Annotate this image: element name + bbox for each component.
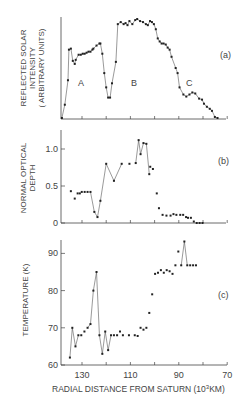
data-point xyxy=(142,21,144,23)
data-point xyxy=(105,163,107,165)
panel-b-x-ticks xyxy=(82,220,227,223)
data-point xyxy=(74,345,76,347)
data-point xyxy=(179,214,181,216)
data-point xyxy=(163,272,165,274)
data-point xyxy=(123,23,125,25)
data-point xyxy=(75,59,77,61)
data-point xyxy=(79,192,81,194)
x-tick-label: 130 xyxy=(74,370,89,380)
data-point xyxy=(175,67,177,69)
data-point xyxy=(142,142,144,144)
data-point xyxy=(152,168,154,170)
panel-a-ylabel-line1: REFLECTED SOLAR xyxy=(19,29,28,106)
data-point xyxy=(145,327,147,329)
panel-c-data-points xyxy=(69,240,197,358)
series-segment xyxy=(97,201,100,217)
data-point xyxy=(169,270,171,272)
data-point xyxy=(201,99,203,101)
panel-c-label: (c) xyxy=(218,290,229,300)
data-point xyxy=(115,61,117,63)
data-point xyxy=(177,251,179,253)
x-tick-label: 70 xyxy=(222,370,232,380)
data-point xyxy=(145,143,147,145)
data-point xyxy=(149,20,151,22)
data-point xyxy=(137,335,139,337)
data-point xyxy=(190,217,192,219)
panel-b-y-ticks: 00.51.0 xyxy=(45,144,65,228)
data-point xyxy=(107,97,109,99)
data-point xyxy=(214,116,216,118)
panel-a-ylabel-line3: ( ARBITRARY UNITS) xyxy=(37,28,46,107)
series-segment xyxy=(136,140,139,163)
data-point xyxy=(192,264,194,266)
panel-a-series-line xyxy=(62,19,218,118)
data-point xyxy=(121,163,123,165)
data-point xyxy=(68,49,70,51)
panel-b-ylabel-line1: NORMAL OPTICAL xyxy=(19,142,28,213)
data-point xyxy=(93,211,95,213)
y-tick-label: 90 xyxy=(48,248,58,258)
panel-c-ylabel: TEMPERATURE (K) xyxy=(21,263,30,336)
y-tick-label: 80 xyxy=(48,286,58,296)
data-point xyxy=(113,334,115,336)
panel-b-series-lines xyxy=(90,140,149,217)
data-point xyxy=(196,222,198,224)
data-point xyxy=(69,357,71,359)
data-point xyxy=(84,53,86,55)
series-segment xyxy=(75,335,78,346)
data-point xyxy=(158,207,160,209)
data-point xyxy=(117,23,119,25)
data-point xyxy=(92,48,94,50)
data-point xyxy=(166,269,168,271)
x-axis-title: RADIAL DISTANCE FROM SATURN (103KM) xyxy=(52,384,225,394)
series-segment xyxy=(70,328,72,358)
data-point xyxy=(77,334,79,336)
y-tick-label: 60 xyxy=(48,360,58,370)
data-point xyxy=(82,53,84,55)
data-point xyxy=(125,22,127,24)
data-point xyxy=(183,240,185,242)
data-point xyxy=(134,334,136,336)
data-point xyxy=(128,163,130,165)
y-tick-label: 70 xyxy=(48,323,58,333)
panel-b-ylabel-line2: DEPTH xyxy=(28,164,37,191)
data-point xyxy=(203,103,205,105)
data-point xyxy=(64,104,66,106)
data-point xyxy=(104,331,106,333)
data-point xyxy=(202,222,204,224)
data-point xyxy=(155,28,157,30)
data-point xyxy=(113,180,115,182)
panel-a-x-ticks xyxy=(82,116,227,119)
data-point xyxy=(77,192,79,194)
data-point xyxy=(140,327,142,329)
data-point xyxy=(156,192,158,194)
data-point xyxy=(98,334,100,336)
series-segment xyxy=(105,332,108,351)
data-point xyxy=(167,47,169,49)
data-point xyxy=(147,24,149,26)
data-point xyxy=(151,293,153,295)
data-point xyxy=(87,191,89,193)
data-point xyxy=(67,79,69,81)
series-segment xyxy=(139,140,141,154)
data-point xyxy=(134,19,136,21)
x-tick-label: 90 xyxy=(174,370,184,380)
data-point xyxy=(87,327,89,329)
region-a-label: A xyxy=(78,78,84,88)
data-point xyxy=(162,214,164,216)
data-point xyxy=(165,215,167,217)
data-point xyxy=(96,271,98,273)
x-tick-label: 110 xyxy=(123,370,137,380)
data-point xyxy=(89,191,91,193)
data-point xyxy=(174,264,176,266)
series-segment xyxy=(106,164,114,181)
data-point xyxy=(80,334,82,336)
series-segment xyxy=(141,143,144,154)
series-segment xyxy=(181,241,184,265)
data-point xyxy=(217,117,219,119)
data-point xyxy=(96,216,98,218)
data-point xyxy=(135,162,137,164)
data-point xyxy=(179,86,181,88)
data-point xyxy=(177,72,179,74)
panel-b: 00.51.0 NORMAL OPTICAL DEPTH (b) xyxy=(19,130,229,228)
